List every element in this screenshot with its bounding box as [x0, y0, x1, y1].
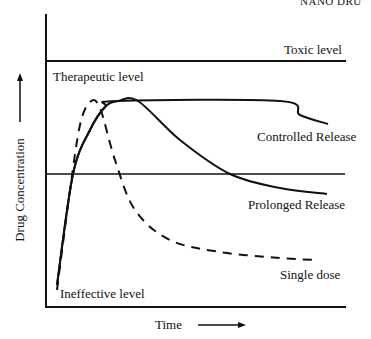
- y-axis-label: Drug Concentration: [12, 138, 28, 242]
- single-dose-label: Single dose: [280, 268, 340, 281]
- prolonged-release-curve: [57, 98, 327, 285]
- x-arrow-head-icon: [238, 322, 246, 328]
- therapeutic-level-label: Therapeutic level: [53, 70, 144, 83]
- y-arrow-head-icon: [17, 73, 23, 81]
- controlled-release-label: Controlled Release: [257, 130, 356, 143]
- toxic-level-label: Toxic level: [284, 43, 342, 56]
- x-axis-label: Time: [155, 318, 182, 331]
- controlled-release-curve: [57, 100, 328, 285]
- ineffective-level-label: Ineffective level: [60, 287, 145, 300]
- prolonged-release-label: Prolonged Release: [248, 198, 345, 211]
